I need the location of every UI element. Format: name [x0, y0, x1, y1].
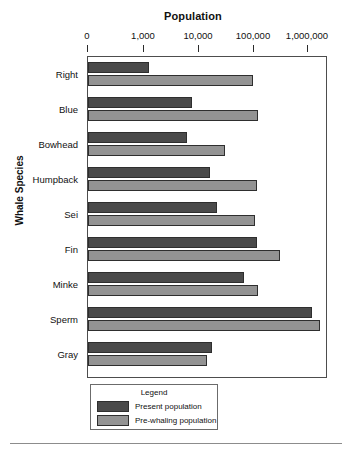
y-axis-title: Whale Species [14, 136, 25, 246]
bar-prewhaling-humpback [88, 180, 257, 191]
x-tick-mark-4 [307, 45, 308, 52]
y-label-humpback: Humpback [33, 174, 78, 185]
y-label-blue: Blue [59, 104, 78, 115]
x-tick-label-4: 1,000,000 [286, 30, 328, 41]
y-label-sei: Sei [64, 209, 78, 220]
bar-present-fin [88, 237, 257, 248]
y-label-bowhead: Bowhead [38, 139, 78, 150]
bar-prewhaling-bowhead [88, 145, 225, 156]
bar-prewhaling-minke [88, 285, 258, 296]
bar-prewhaling-gray [88, 355, 207, 366]
x-tick-mark-2 [198, 45, 199, 52]
legend-swatch-prewhaling [97, 415, 129, 426]
chart-title: Population [0, 10, 352, 22]
chart-title-text: Population [164, 10, 222, 22]
bar-group-fin [88, 237, 327, 261]
bar-prewhaling-fin [88, 250, 280, 261]
bar-present-gray [88, 342, 212, 353]
bar-group-bowhead [88, 132, 327, 156]
legend-swatch-present [97, 401, 129, 412]
bar-group-humpback [88, 167, 327, 191]
bar-group-minke [88, 272, 327, 296]
bar-present-minke [88, 272, 244, 283]
x-tick-mark-0 [87, 45, 88, 52]
bar-group-sperm [88, 307, 327, 331]
bar-prewhaling-sperm [88, 320, 320, 331]
bar-group-sei [88, 202, 327, 226]
bar-present-humpback [88, 167, 210, 178]
y-label-gray: Gray [57, 349, 78, 360]
y-label-minke: Minke [53, 279, 78, 290]
legend-label-present: Present population [135, 401, 202, 412]
x-tick-label-1: 1,000 [131, 30, 155, 41]
bar-prewhaling-right [88, 75, 253, 86]
bar-group-right [88, 62, 327, 86]
bar-present-sperm [88, 307, 312, 318]
bar-present-blue [88, 97, 192, 108]
legend-item-prewhaling: Pre-whaling population [97, 415, 215, 426]
y-label-right: Right [56, 69, 78, 80]
y-label-fin: Fin [65, 244, 78, 255]
x-tick-mark-1 [143, 45, 144, 52]
x-axis: 01,00010,000100,0001,000,000 [87, 30, 328, 52]
bar-present-bowhead [88, 132, 187, 143]
bar-group-gray [88, 342, 327, 366]
x-tick-label-2: 10,000 [183, 30, 212, 41]
legend-title: Legend [91, 388, 217, 397]
bar-group-blue [88, 97, 327, 121]
legend-label-prewhaling: Pre-whaling population [135, 415, 216, 426]
footer-divider [10, 443, 342, 444]
legend: Legend Present population Pre-whaling po… [90, 384, 218, 430]
bar-present-sei [88, 202, 217, 213]
x-tick-mark-3 [253, 45, 254, 52]
legend-item-present: Present population [97, 401, 215, 412]
bar-prewhaling-blue [88, 110, 258, 121]
bar-prewhaling-sei [88, 215, 255, 226]
bars-layer [88, 57, 327, 377]
x-tick-label-0: 0 [84, 30, 89, 41]
y-label-sperm: Sperm [50, 314, 78, 325]
x-tick-label-3: 100,000 [236, 30, 270, 41]
bar-present-right [88, 62, 149, 73]
